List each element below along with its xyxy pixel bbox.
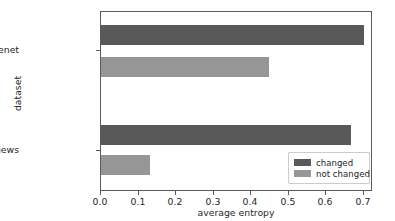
x-axis-label: average entropy xyxy=(100,207,372,218)
y-tick-label-amazon-reviews: Amazon Reviews xyxy=(0,145,19,155)
x-tick-label-0: 0.0 xyxy=(80,196,120,207)
legend: changed not changed xyxy=(288,152,370,184)
x-tick-label-7: 0.7 xyxy=(343,196,383,207)
legend-item-not-changed: not changed xyxy=(294,168,364,179)
bar-amazon-reviews-changed xyxy=(101,125,351,145)
legend-label-changed: changed xyxy=(316,158,353,168)
legend-label-not-changed: not changed xyxy=(316,169,370,179)
legend-swatch-changed xyxy=(294,159,311,166)
bar-chart-figure: dataset Tiny Imagenet Amazon Reviews 0.0… xyxy=(0,0,395,221)
x-tick-label-3: 0.3 xyxy=(193,196,233,207)
x-tick-label-4: 0.4 xyxy=(230,196,270,207)
x-tick-label-6: 0.6 xyxy=(305,196,345,207)
y-tick-label-tiny-imagenet: Tiny Imagenet xyxy=(0,45,19,55)
x-tick-label-5: 0.5 xyxy=(268,196,308,207)
bar-tiny-imagenet-not-changed xyxy=(101,57,269,77)
legend-item-changed: changed xyxy=(294,157,364,168)
x-tick-mark-5 xyxy=(288,191,289,195)
x-tick-label-1: 0.1 xyxy=(118,196,158,207)
x-tick-mark-2 xyxy=(175,191,176,195)
x-tick-mark-3 xyxy=(213,191,214,195)
x-tick-mark-0 xyxy=(100,191,101,195)
bar-amazon-reviews-not-changed xyxy=(101,155,150,175)
y-axis-label: dataset xyxy=(12,64,23,124)
x-tick-mark-7 xyxy=(363,191,364,195)
x-tick-label-2: 0.2 xyxy=(155,196,195,207)
x-tick-mark-4 xyxy=(250,191,251,195)
bar-tiny-imagenet-changed xyxy=(101,25,364,45)
x-tick-mark-1 xyxy=(138,191,139,195)
x-tick-mark-6 xyxy=(325,191,326,195)
legend-swatch-not-changed xyxy=(294,170,311,177)
